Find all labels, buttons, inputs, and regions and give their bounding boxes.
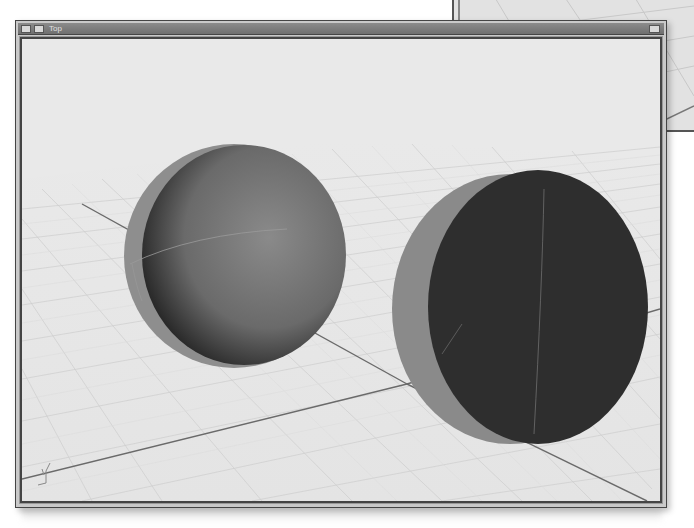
viewport-titlebar[interactable]: Top: [18, 23, 664, 35]
viewport-options-icon[interactable]: [34, 25, 44, 33]
hemisphere-object: [124, 144, 346, 368]
viewport-window[interactable]: Top: [15, 20, 667, 508]
disk-object: [392, 170, 648, 444]
viewport-title: Top: [49, 23, 62, 34]
viewport-menu-icon[interactable]: [21, 25, 31, 33]
viewport-canvas[interactable]: [20, 37, 662, 503]
maximize-icon[interactable]: [649, 25, 660, 33]
scene: [22, 39, 660, 501]
window-shadow: [22, 508, 662, 522]
